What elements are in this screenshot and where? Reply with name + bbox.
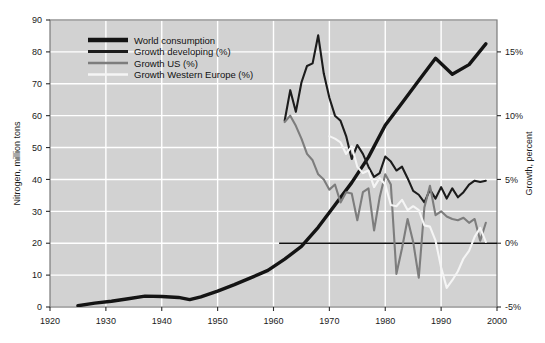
x-axis-tick-label: 1960 [263,316,283,326]
y-axis-tick-label: 50 [32,143,42,153]
y-axis-tick-label: 20 [32,238,42,248]
y-axis-tick-label: 90 [32,15,42,25]
y2-axis-tick-label: 0% [505,238,518,248]
legend-label-1: Growth developing (%) [134,46,231,57]
y-axis-tick-label: 60 [32,111,42,121]
x-axis-tick-label: 1950 [208,316,228,326]
x-axis-tick-label: 1980 [375,316,395,326]
y-axis-tick-label: 30 [32,207,42,217]
chart-container: 0102030405060708090-5%0%5%10%15%19201930… [0,0,545,343]
y-axis-tick-label: 40 [32,175,42,185]
y2-axis-tick-label: 15% [505,47,523,57]
y2-axis-tick-label: 10% [505,111,523,121]
x-axis-tick-label: 1990 [431,316,451,326]
x-axis-tick-label: 1930 [96,316,116,326]
legend-label-2: Growth US (%) [134,58,198,69]
x-axis-tick-label: 2000 [487,316,507,326]
y-axis-tick-label: 80 [32,47,42,57]
legend-label-3: Growth Western Europe (%) [134,69,253,80]
y-axis-tick-label: 0 [37,302,42,312]
y-axis-tick-label: 70 [32,79,42,89]
x-axis-tick-label: 1970 [319,316,339,326]
x-axis-tick-label: 1920 [40,316,60,326]
y-axis-title: Nitrogen, million tons [12,121,22,206]
nitrogen-consumption-growth-chart: 0102030405060708090-5%0%5%10%15%19201930… [0,0,545,343]
y2-axis-title: Growth, percent [524,131,534,196]
legend-label-0: World consumption [134,35,215,46]
y2-axis-tick-label: -5% [505,302,521,312]
y2-axis-tick-label: 5% [505,175,518,185]
x-axis-tick-label: 1940 [152,316,172,326]
y-axis-tick-label: 10 [32,270,42,280]
